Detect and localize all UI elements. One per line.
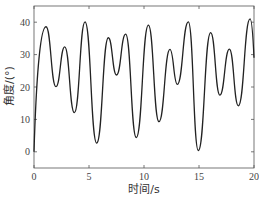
y-tick-label: 40 <box>20 17 30 28</box>
x-axis-title: 时间/s <box>128 183 160 196</box>
plot-border <box>34 6 254 168</box>
y-tick-label: 20 <box>20 82 30 93</box>
x-tick-label: 5 <box>87 171 92 182</box>
x-tick-label: 10 <box>139 171 149 182</box>
x-tick-label: 0 <box>32 171 37 182</box>
x-tick-label: 15 <box>194 171 204 182</box>
y-tick-label: 10 <box>20 114 30 125</box>
x-axis: 05101520 <box>32 6 260 182</box>
y-tick-label: 30 <box>20 49 30 60</box>
plot-frame <box>34 6 254 168</box>
y-axis-title: 角度/(°) <box>2 66 16 106</box>
x-tick-label: 20 <box>249 171 259 182</box>
y-tick-label: 0 <box>25 146 30 157</box>
angle-series-line <box>34 19 254 152</box>
line-chart: 010203040 05101520 时间/s 角度/(°) <box>0 0 259 198</box>
